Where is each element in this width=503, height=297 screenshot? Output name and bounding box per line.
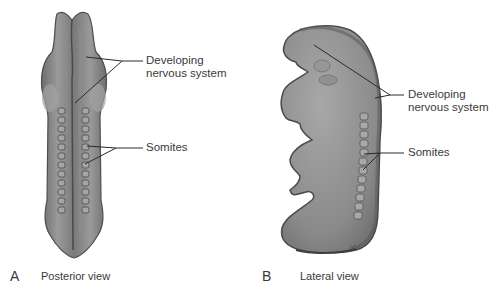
panel-letter-a: A	[10, 268, 19, 284]
label-somites-a: Somites	[146, 141, 188, 154]
label-developing-nervous-system-a: Developing nervous system	[146, 54, 227, 80]
posterior-embryo	[41, 12, 106, 258]
caption-lateral-view: Lateral view	[300, 270, 359, 282]
label-developing-nervous-system-b: Developing nervous system	[408, 88, 489, 114]
lateral-embryo	[281, 26, 381, 253]
label-line-1: Developing	[408, 88, 489, 101]
label-line-1: Developing	[146, 54, 227, 67]
caption-posterior-view: Posterior view	[41, 270, 110, 282]
label-line-2: nervous system	[408, 101, 489, 114]
panel-letter-b: B	[262, 268, 271, 284]
embryo-figure: Developing nervous system Somites A Post…	[0, 0, 503, 297]
label-line-2: nervous system	[146, 67, 227, 80]
label-somites-b: Somites	[408, 146, 450, 159]
